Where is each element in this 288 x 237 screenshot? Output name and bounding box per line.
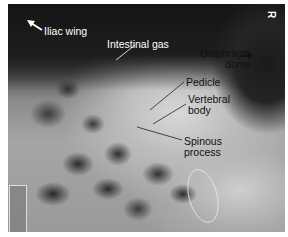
label-diaphragm-line2: dome [200,59,251,70]
label-intestinal-gas: Intestinal gas [107,39,169,50]
orientation-marker: R [266,11,277,18]
label-vertebral-body: Vertebral body [188,94,230,116]
xray-ruler-artifact [9,185,27,232]
label-vertebral-line2: body [188,105,230,116]
label-pedicle: Pedicle [186,77,220,88]
label-spinous-process: Spinous process [184,136,222,158]
label-diaphragm-dome: Diaphragm dome [200,48,251,70]
label-iliac-wing: Iliac wing [44,26,87,37]
label-spinous-line2: process [184,147,222,158]
